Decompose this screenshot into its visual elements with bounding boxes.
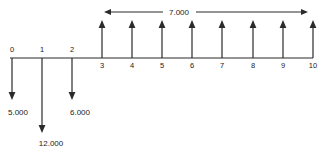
amount-label-1: 12.000 bbox=[39, 139, 64, 148]
cash-flow-period-9: 9 bbox=[280, 20, 287, 70]
tick-label-5: 5 bbox=[160, 61, 164, 70]
cash-flow-period-4: 4 bbox=[129, 20, 136, 70]
tick-label-9: 9 bbox=[281, 61, 285, 70]
span-label: 7.000 bbox=[169, 8, 190, 17]
flow-arrowhead-up-5 bbox=[159, 20, 166, 28]
cash-flow-period-8: 8 bbox=[250, 20, 257, 70]
tick-label-6: 6 bbox=[190, 61, 194, 70]
cash-flow-period-2: 2 6.000 bbox=[69, 45, 91, 117]
tick-label-8: 8 bbox=[251, 61, 255, 70]
flow-arrowhead-up-4 bbox=[129, 20, 136, 28]
amount-label-2: 6.000 bbox=[70, 108, 91, 117]
flow-arrowhead-up-9 bbox=[280, 20, 287, 28]
cash-flow-diagram: 7.000 0 5.000 1 12.000 2 6.000 3 4 bbox=[0, 0, 323, 150]
cash-flow-period-3: 3 bbox=[99, 20, 106, 70]
span-left-arrowhead bbox=[104, 9, 111, 15]
cash-flow-period-7: 7 bbox=[219, 20, 226, 70]
span-annotation-group: 7.000 bbox=[104, 8, 308, 17]
flow-arrowhead-up-8 bbox=[250, 20, 257, 28]
cash-flow-period-10: 10 bbox=[309, 20, 317, 70]
cash-flow-period-6: 6 bbox=[189, 20, 196, 70]
flow-arrowhead-down-2 bbox=[69, 92, 76, 100]
tick-label-4: 4 bbox=[130, 61, 134, 70]
cash-flow-period-5: 5 bbox=[159, 20, 166, 70]
flow-arrowhead-up-7 bbox=[219, 20, 226, 28]
flow-arrowhead-up-3 bbox=[99, 20, 106, 28]
tick-label-2: 2 bbox=[70, 45, 74, 54]
cash-flow-period-0: 0 5.000 bbox=[8, 45, 29, 117]
flow-arrowhead-up-6 bbox=[189, 20, 196, 28]
cash-flow-period-1: 1 12.000 bbox=[39, 45, 64, 148]
amount-label-0: 5.000 bbox=[8, 108, 29, 117]
flow-arrowhead-down-0 bbox=[9, 92, 16, 100]
tick-label-3: 3 bbox=[100, 61, 104, 70]
flow-arrowhead-down-1 bbox=[39, 125, 46, 133]
tick-label-10: 10 bbox=[309, 61, 317, 70]
span-right-arrowhead bbox=[301, 9, 308, 15]
flow-arrowhead-up-10 bbox=[310, 20, 317, 28]
tick-label-1: 1 bbox=[40, 45, 44, 54]
tick-label-7: 7 bbox=[220, 61, 224, 70]
tick-label-0: 0 bbox=[10, 45, 14, 54]
